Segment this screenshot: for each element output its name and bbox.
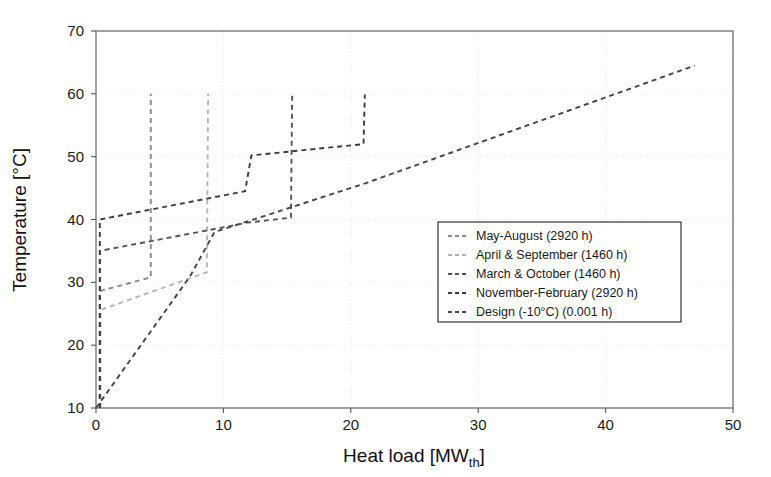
- x-title-main: Heat load [MW: [343, 445, 469, 466]
- chart-legend: May-August (2920 h)April & September (14…: [438, 222, 681, 322]
- y-tick-label: 30: [67, 273, 84, 290]
- x-tick-label: 30: [470, 416, 487, 433]
- chart-canvas: 01020304050 10203040506070 Heat load [MW…: [0, 0, 771, 477]
- y-tick-label: 60: [67, 85, 84, 102]
- x-tick-label: 40: [597, 416, 614, 433]
- y-tick-label: 10: [67, 399, 84, 416]
- x-tick-label: 20: [342, 416, 359, 433]
- y-axis-title-text: Temperature [°C]: [9, 148, 30, 292]
- y-tick-label: 50: [67, 148, 84, 165]
- x-tick-label: 50: [725, 416, 742, 433]
- y-tick-label: 20: [67, 336, 84, 353]
- chart-figure: 01020304050 10203040506070 Heat load [MW…: [0, 0, 771, 477]
- legend-label-2: March & October (1460 h): [476, 267, 621, 281]
- legend-label-1: April & September (1460 h): [476, 248, 627, 262]
- x-tick-label: 0: [92, 416, 100, 433]
- x-tick-label: 10: [215, 416, 232, 433]
- x-title-close: ]: [480, 445, 485, 466]
- legend-label-3: November-February (2920 h): [476, 286, 638, 300]
- legend-label-0: May-August (2920 h): [476, 229, 593, 243]
- x-title-subscript: th: [469, 455, 480, 470]
- y-axis-title: Temperature [°C]: [9, 148, 30, 292]
- legend-label-4: Design (-10°C) (0.001 h): [476, 305, 612, 319]
- y-tick-label: 70: [67, 22, 84, 39]
- y-tick-label: 40: [67, 211, 84, 228]
